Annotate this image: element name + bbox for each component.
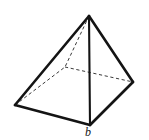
base-label-b: b xyxy=(85,126,91,138)
pyramid-figure: b xyxy=(0,0,149,140)
edge-apex-to-front-vertical xyxy=(89,16,90,125)
pyramid-diagram xyxy=(0,0,149,140)
